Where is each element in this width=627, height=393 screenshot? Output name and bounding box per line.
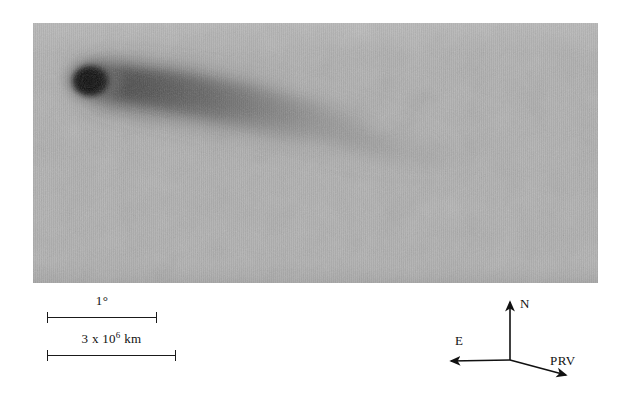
scale-bar-kilometres-label: 3 x 106 km [47,331,176,347]
scale-bar-kilometres: 3 x 106 km [47,331,176,361]
scale-bar-kilometres-tick-right [175,350,176,361]
scale-bar-degree-label: 1° [47,293,157,309]
compass-label-north: N [520,296,530,311]
plate-edge-vignette [33,23,598,283]
scale-bar-kilometres-rule [47,350,176,361]
orientation-compass-canvas: N E PRV [430,285,595,390]
orientation-compass: N E PRV [430,285,595,390]
compass-label-prv: PRV [550,353,576,368]
scale-bar-km-prefix: 3 x 10 [82,331,116,346]
compass-arrow-east [451,360,510,361]
scale-bar-kilometres-line [47,355,176,356]
scale-bar-degree-line [47,317,157,318]
scale-bar-degree: 1° [47,293,157,323]
scale-bar-degree-rule [47,312,157,323]
comet-plate-image [33,23,598,283]
scale-bar-km-suffix: km [121,331,142,346]
compass-label-east: E [455,333,463,348]
comet-plate-canvas [33,23,598,283]
scale-bar-degree-tick-right [156,312,157,323]
